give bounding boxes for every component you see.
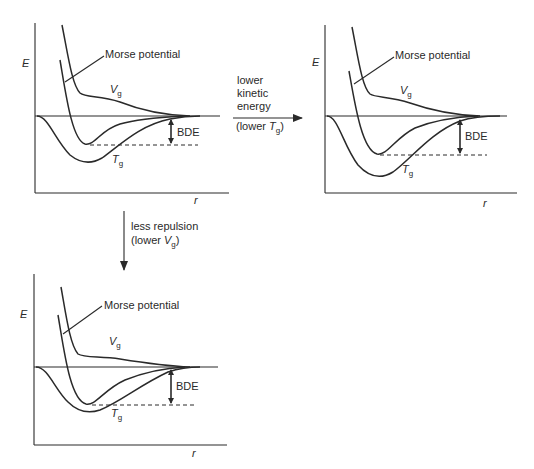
panel-lower-kinetic: E r Morse potential Vg Tg BDE bbox=[312, 25, 517, 209]
transition-lower-kinetic: lower kinetic energy (lower Tg) bbox=[233, 74, 302, 135]
bde-label: BDE bbox=[176, 380, 199, 392]
morse-label: Morse potential bbox=[105, 48, 180, 60]
axis-label-r: r bbox=[483, 197, 488, 209]
vg-label: Vg bbox=[110, 83, 122, 98]
vg-label: Vg bbox=[400, 84, 412, 99]
axis-label-e: E bbox=[20, 308, 28, 320]
tg-label: Tg bbox=[111, 407, 122, 422]
axis-label-r: r bbox=[192, 447, 197, 459]
tg-curve bbox=[327, 116, 500, 176]
axis-label-e: E bbox=[312, 56, 320, 68]
morse-label: Morse potential bbox=[395, 49, 470, 61]
tg-label: Tg bbox=[112, 153, 123, 168]
vg-curve bbox=[352, 27, 480, 116]
transition-less-repulsion: less repulsion (lower Vg) bbox=[124, 211, 198, 270]
morse-potential-diagram: E r Morse potential Vg Tg BDE lower kine… bbox=[0, 0, 534, 469]
bde-label: BDE bbox=[177, 126, 200, 138]
bde-label: BDE bbox=[465, 130, 488, 142]
transition-right-line-1: lower bbox=[237, 74, 264, 86]
morse-leader-line bbox=[63, 306, 102, 334]
transition-down-paren: (lower Vg) bbox=[131, 234, 179, 249]
transition-right-line-3: energy bbox=[237, 100, 271, 112]
axis-label-r: r bbox=[194, 194, 199, 206]
vg-curve bbox=[62, 25, 190, 116]
axis-label-e: E bbox=[22, 57, 30, 69]
transition-right-line-2: kinetic bbox=[237, 87, 269, 99]
morse-label: Morse potential bbox=[104, 299, 179, 311]
transition-right-paren: (lower Tg) bbox=[236, 120, 284, 135]
vg-label: Vg bbox=[109, 335, 121, 350]
tg-label: Tg bbox=[402, 163, 413, 178]
transition-down-line-1: less repulsion bbox=[131, 220, 198, 232]
panel-less-repulsion: E r Morse potential Vg Tg BDE bbox=[20, 274, 227, 459]
morse-curve bbox=[349, 71, 478, 154]
panel-original: E r Morse potential Vg Tg BDE bbox=[22, 23, 229, 206]
